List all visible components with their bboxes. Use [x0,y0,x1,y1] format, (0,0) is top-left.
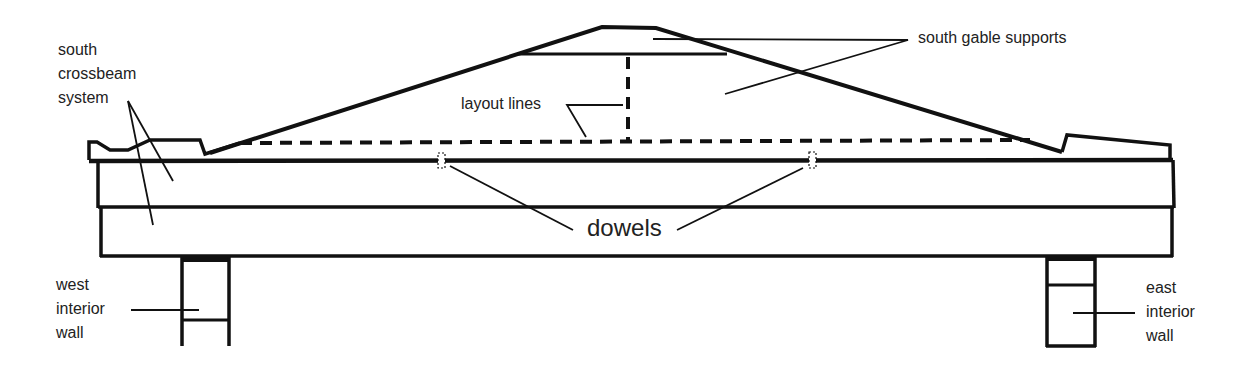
dowel-west [438,153,445,168]
west-sill-profile [89,140,240,160]
label-west-interior-wall: west interior wall [56,273,105,345]
label-east-interior-wall: east interior wall [1146,276,1195,348]
label-south-crossbeam-system: south crossbeam system [58,38,136,110]
east-sill-profile [1062,135,1170,160]
label-dowels: dowels [587,214,662,242]
label-layout-lines: layout lines [461,92,541,116]
dowel-east [809,152,816,168]
leader-lines [128,39,1135,313]
diagram-canvas [0,0,1252,366]
east-interior-wall [1046,257,1096,347]
west-interior-wall [181,257,229,346]
label-south-gable-supports: south gable supports [918,26,1067,50]
layout-lines [240,57,1030,143]
upper-crossbeam [89,160,1174,208]
